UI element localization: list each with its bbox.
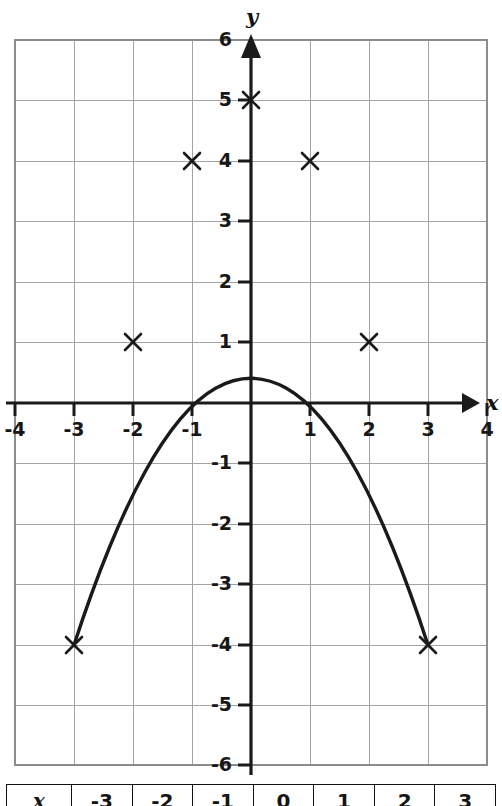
- x-axis-arrowhead: [462, 393, 480, 413]
- y-tick-label-5: 5: [188, 90, 232, 109]
- table-cell-x-3: 3: [435, 785, 496, 806]
- value-table-grid: x -3 -2 -1 0 1 2 3: [6, 784, 496, 806]
- x-tick-label-4: 4: [467, 420, 502, 439]
- x-tick-label-neg2: -2: [108, 420, 158, 439]
- table-header-x: x: [7, 785, 72, 806]
- graph-container: 6 5 4 3 2 1 -1 -2 -3 -4 -5 -6 -4 -3 -2 -…: [0, 0, 502, 775]
- table-row: x -3 -2 -1 0 1 2 3: [7, 785, 496, 806]
- x-axis-name: x: [486, 392, 499, 413]
- y-tick-label-6: 6: [188, 30, 232, 49]
- y-tick-label-neg1: -1: [180, 453, 232, 472]
- table-cell-x-neg2: -2: [132, 785, 193, 806]
- y-tick-label-1: 1: [188, 332, 232, 351]
- table-cell-x-neg1: -1: [193, 785, 254, 806]
- table-cell-x-neg3: -3: [72, 785, 133, 806]
- y-axis-name: y: [246, 6, 258, 27]
- x-tick-label-2: 2: [349, 420, 389, 439]
- y-tick-label-neg2: -2: [180, 514, 232, 533]
- x-tick-label-neg4: -4: [0, 420, 40, 439]
- y-axis-ticks: [238, 100, 251, 765]
- y-tick-label-2: 2: [188, 272, 232, 291]
- coordinate-plane-svg: [0, 0, 502, 775]
- table-cell-x-0: 0: [253, 785, 314, 806]
- table-cell-x-2: 2: [374, 785, 435, 806]
- y-tick-label-neg5: -5: [180, 695, 232, 714]
- x-tick-label-3: 3: [408, 420, 448, 439]
- y-tick-label-4: 4: [188, 151, 232, 170]
- y-tick-label-neg4: -4: [180, 635, 232, 654]
- table-cell-x-1: 1: [314, 785, 375, 806]
- y-axis-arrowhead: [241, 34, 261, 58]
- y-tick-label-neg3: -3: [180, 574, 232, 593]
- x-tick-label-neg3: -3: [49, 420, 99, 439]
- y-tick-label-3: 3: [188, 211, 232, 230]
- y-tick-label-neg6: -6: [180, 755, 232, 774]
- x-tick-label-1: 1: [290, 420, 330, 439]
- value-table: x -3 -2 -1 0 1 2 3: [6, 784, 496, 806]
- x-tick-label-neg1: -1: [167, 420, 217, 439]
